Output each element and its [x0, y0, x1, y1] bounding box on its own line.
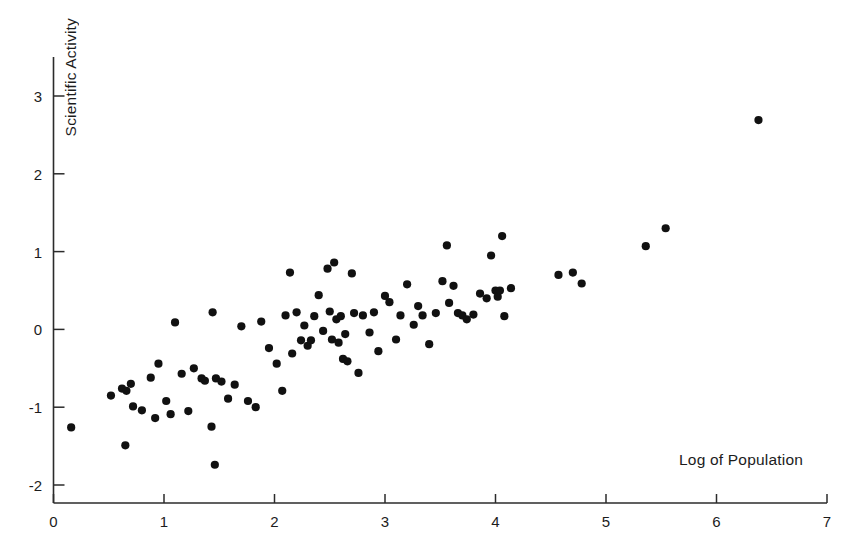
- data-point: [273, 360, 281, 368]
- data-point: [334, 339, 342, 347]
- data-point: [237, 322, 245, 330]
- data-point: [487, 251, 495, 259]
- data-point: [642, 242, 650, 250]
- data-point: [392, 335, 400, 343]
- data-point: [190, 364, 198, 372]
- data-point: [323, 265, 331, 273]
- data-point: [265, 344, 273, 352]
- data-point: [438, 277, 446, 285]
- y-tick-label: 1: [12, 243, 42, 260]
- data-point: [496, 286, 504, 294]
- x-tick-label: 5: [602, 513, 610, 530]
- data-point: [578, 279, 586, 287]
- data-point: [122, 387, 130, 395]
- data-point: [410, 321, 418, 329]
- data-point: [257, 318, 265, 326]
- data-point: [278, 387, 286, 395]
- y-tick-label: 0: [12, 321, 42, 338]
- data-point: [307, 336, 315, 344]
- data-point: [554, 271, 562, 279]
- x-axis-label: Log of Population: [679, 451, 803, 469]
- data-point: [337, 312, 345, 320]
- x-tick-label: 1: [160, 513, 168, 530]
- data-point: [121, 441, 129, 449]
- data-point: [432, 309, 440, 317]
- data-point: [147, 374, 155, 382]
- data-point: [449, 282, 457, 290]
- y-axis-label: Scientific Activity: [62, 18, 80, 136]
- data-point: [281, 311, 289, 319]
- x-tick-label: 3: [381, 513, 389, 530]
- data-point: [443, 241, 451, 249]
- data-point: [498, 232, 506, 240]
- data-point: [385, 298, 393, 306]
- data-point: [167, 410, 175, 418]
- x-tick-label: 0: [49, 513, 57, 530]
- data-point: [224, 395, 232, 403]
- data-point: [507, 284, 515, 292]
- axis-ticks: [54, 96, 828, 503]
- x-tick-label: 6: [712, 513, 720, 530]
- data-point: [326, 307, 334, 315]
- data-point: [252, 403, 260, 411]
- data-point: [414, 302, 422, 310]
- data-point: [425, 340, 433, 348]
- data-point: [483, 294, 491, 302]
- data-point: [365, 328, 373, 336]
- data-point: [211, 461, 219, 469]
- data-point: [343, 357, 351, 365]
- data-point: [330, 258, 338, 266]
- y-tick-label: -1: [12, 399, 42, 416]
- data-point: [151, 414, 159, 422]
- data-point: [67, 423, 75, 431]
- data-points: [67, 116, 763, 469]
- data-point: [445, 299, 453, 307]
- data-point: [350, 309, 358, 317]
- data-point: [354, 369, 362, 377]
- data-point: [359, 311, 367, 319]
- data-point: [107, 391, 115, 399]
- data-point: [286, 269, 294, 277]
- data-point: [396, 311, 404, 319]
- data-point: [297, 336, 305, 344]
- data-point: [171, 318, 179, 326]
- data-point: [244, 397, 252, 405]
- data-point: [162, 397, 170, 405]
- data-point: [319, 327, 327, 335]
- data-point: [178, 370, 186, 378]
- data-point: [293, 308, 301, 316]
- data-point: [341, 330, 349, 338]
- x-tick-label: 7: [823, 513, 831, 530]
- data-point: [127, 380, 135, 388]
- data-point: [754, 116, 762, 124]
- data-point: [500, 312, 508, 320]
- data-point: [348, 269, 356, 277]
- data-point: [288, 349, 296, 357]
- data-point: [217, 377, 225, 385]
- y-tick-label: 2: [12, 165, 42, 182]
- data-point: [310, 312, 318, 320]
- data-point: [374, 347, 382, 355]
- data-point: [184, 407, 192, 415]
- data-point: [476, 290, 484, 298]
- data-point: [231, 381, 239, 389]
- data-point: [569, 269, 577, 277]
- scatter-plot-figure: Scientific Activity Log of Population -2…: [0, 0, 855, 544]
- data-point: [463, 315, 471, 323]
- y-tick-label: 3: [12, 88, 42, 105]
- data-point: [154, 360, 162, 368]
- data-point: [662, 224, 670, 232]
- data-point: [418, 311, 426, 319]
- data-point: [403, 280, 411, 288]
- data-point: [207, 423, 215, 431]
- x-tick-label: 2: [270, 513, 278, 530]
- data-point: [300, 321, 308, 329]
- data-point: [138, 406, 146, 414]
- data-point: [209, 308, 217, 316]
- x-tick-label: 4: [491, 513, 499, 530]
- data-point: [201, 377, 209, 385]
- data-point: [129, 402, 137, 410]
- data-point: [469, 311, 477, 319]
- y-tick-label: -2: [12, 477, 42, 494]
- data-point: [370, 308, 378, 316]
